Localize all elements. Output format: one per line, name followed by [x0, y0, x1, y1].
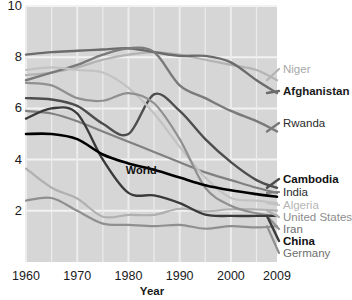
x-axis-tick-label: 2009 [252, 270, 302, 283]
series-label-algeria: Algeria [283, 200, 319, 212]
series-line-germany [26, 198, 277, 229]
x-axis-tick-label: 1960 [1, 270, 51, 283]
series-label-cambodia: Cambodia [283, 174, 339, 186]
x-axis-tick-label: 2000 [206, 270, 256, 283]
x-axis-tick-label: 1990 [155, 270, 205, 283]
annotation-world: World [126, 165, 157, 176]
y-axis-tick-label: 10 [0, 0, 22, 12]
x-axis-tick-label: 1970 [52, 270, 102, 283]
series-label-niger: Niger [283, 64, 310, 76]
y-axis-tick-label: 4 [0, 153, 22, 166]
series-label-united-states: United States [283, 212, 352, 224]
series-line-india [26, 111, 277, 193]
series-line-rwanda [26, 48, 277, 132]
series-label-china: China [283, 236, 315, 248]
gridlines [26, 6, 277, 262]
x-axis-tick-label: 1980 [103, 270, 153, 283]
y-axis-tick-label: 6 [0, 101, 22, 114]
series-lines [26, 48, 277, 229]
y-axis-tick-label: 8 [0, 50, 22, 63]
series-label-afghanistan: Afghanistan [283, 86, 349, 98]
series-label-germany: Germany [283, 248, 330, 260]
y-axis-tick-label: 2 [0, 204, 22, 217]
x-axis-title: Year [92, 286, 212, 298]
series-label-rwanda: Rwanda [283, 118, 325, 130]
series-label-india: India [283, 187, 308, 199]
series-label-iran: Iran [283, 224, 303, 236]
leader-line-india [267, 192, 279, 193]
